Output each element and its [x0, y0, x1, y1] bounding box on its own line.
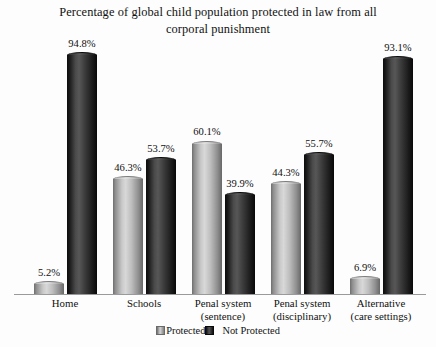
- cylinder-body: [304, 155, 334, 294]
- legend-item-not-protected[interactable]: Not Protected: [205, 325, 279, 336]
- cylinder-body: [67, 55, 97, 294]
- chart-title-line-2: corporal punishment: [0, 21, 436, 38]
- cylinder-body: [146, 160, 176, 294]
- value-label-penal-disciplinary-protected: 44.3%: [263, 167, 309, 178]
- value-label-home-protected: 5.2%: [26, 267, 72, 278]
- legend-item-protected[interactable]: Protected: [156, 325, 205, 336]
- value-label-penal-sentence-not-protected: 39.9%: [217, 178, 263, 189]
- legend-label-not-protected: Not Protected: [222, 325, 279, 336]
- legend-label-protected: Protected: [166, 325, 205, 336]
- legend-swatch-protected-icon: [156, 326, 165, 335]
- legend-swatch-not-protected-icon: [205, 326, 214, 335]
- category-label-alternative-care: Alternative (care settings): [326, 297, 436, 322]
- cylinder-body: [383, 59, 413, 294]
- bar-group-schools: 46.3% 53.7%: [113, 38, 176, 294]
- x-axis-line: [14, 294, 426, 295]
- bar-chart: Percentage of global child population pr…: [0, 0, 436, 347]
- bar-group-penal-sentence: 60.1% 39.9%: [192, 38, 255, 294]
- cylinder-body: [350, 279, 380, 294]
- bar-group-alternative-care: 6.9% 93.1%: [350, 38, 413, 294]
- value-label-penal-sentence-protected: 60.1%: [184, 126, 230, 137]
- plot-area: 5.2% 94.8% 46.3%: [0, 38, 436, 295]
- value-label-schools-protected: 46.3%: [105, 162, 151, 173]
- chart-title: Percentage of global child population pr…: [0, 4, 436, 38]
- cylinder-body: [271, 184, 301, 294]
- cylinder-body: [225, 195, 255, 294]
- cylinder-body: [113, 179, 143, 294]
- value-label-penal-disciplinary-not-protected: 55.7%: [296, 138, 342, 149]
- bar-group-home: 5.2% 94.8%: [34, 38, 97, 294]
- value-label-alternative-care-protected: 6.9%: [342, 262, 388, 273]
- chart-title-line-1: Percentage of global child population pr…: [0, 4, 436, 21]
- value-label-home-not-protected: 94.8%: [59, 38, 105, 49]
- bar-group-penal-disciplinary: 44.3% 55.7%: [271, 38, 334, 294]
- cylinder-body: [192, 144, 222, 294]
- cylinder-body: [34, 284, 64, 294]
- value-label-alternative-care-not-protected: 93.1%: [375, 42, 421, 53]
- chart-legend: Protected Not Protected: [0, 325, 436, 336]
- value-label-schools-not-protected: 53.7%: [138, 143, 184, 154]
